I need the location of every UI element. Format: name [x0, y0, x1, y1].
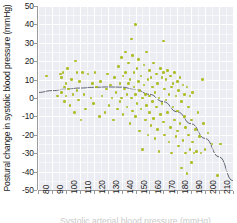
gridline-horizontal-minor — [38, 144, 233, 145]
data-point — [168, 93, 171, 96]
data-point — [63, 86, 66, 89]
y-axis-tick-label: 10 — [25, 75, 34, 85]
x-axis-tick-label: 220 — [236, 180, 237, 194]
x-axis-tick-mark — [122, 191, 123, 194]
y-axis-tick-label: -40 — [22, 167, 34, 177]
gridline-horizontal-minor — [38, 126, 233, 127]
gridline-horizontal — [38, 153, 233, 154]
x-axis-tick-label: 80 — [41, 185, 51, 194]
x-axis-tick-label: 120 — [97, 180, 107, 194]
data-point — [195, 150, 198, 153]
x-axis-tick-label: 180 — [180, 180, 190, 194]
x-axis-tick-mark — [66, 191, 67, 194]
x-axis-tick-label: 200 — [208, 180, 218, 194]
data-point — [166, 69, 169, 72]
data-point — [198, 135, 201, 138]
data-point — [150, 124, 153, 127]
data-point — [138, 89, 141, 92]
gridline-horizontal — [38, 135, 233, 136]
data-point — [112, 119, 115, 122]
y-axis-tick-mark — [34, 153, 37, 154]
y-axis-tick-label: 20 — [25, 56, 34, 66]
data-point — [183, 115, 186, 118]
data-point — [159, 113, 162, 116]
data-point — [152, 117, 155, 120]
data-point — [60, 91, 63, 94]
data-point — [104, 111, 107, 114]
data-point — [162, 40, 165, 43]
data-point — [169, 126, 172, 129]
data-point — [150, 76, 153, 79]
data-point — [134, 23, 137, 26]
y-axis-tick-label: -30 — [22, 148, 34, 158]
x-axis-tick-mark — [163, 191, 164, 194]
data-point — [45, 75, 48, 78]
y-axis-tick-mark — [34, 98, 37, 99]
x-axis-tick-label: 170 — [167, 180, 177, 194]
x-axis-tick-label: 130 — [111, 180, 121, 194]
data-point — [81, 71, 84, 74]
data-point — [216, 174, 219, 177]
data-point — [60, 76, 63, 79]
data-point — [136, 67, 139, 70]
y-axis-tick-mark — [34, 116, 37, 117]
data-point — [65, 82, 68, 85]
x-axis-tick-label: 100 — [69, 180, 79, 194]
data-point — [173, 71, 176, 74]
data-point — [77, 99, 80, 102]
y-axis-title-text: Postural change in systolic blood pressu… — [2, 4, 12, 191]
data-point — [105, 88, 108, 91]
y-axis-tick-mark — [34, 172, 37, 173]
data-point — [134, 115, 137, 118]
x-axis-title-text: Systolic arterial blood pressure (mmHg) — [38, 216, 233, 223]
y-axis-tick-labels: 50403020100-10-20-30-40-50 — [14, 0, 36, 196]
data-point — [134, 93, 137, 96]
data-point — [156, 82, 159, 85]
data-point — [176, 110, 179, 113]
y-axis-tick-label: 50 — [25, 1, 34, 11]
gridline-horizontal — [38, 80, 233, 81]
y-axis-title: Postural change in systolic blood pressu… — [0, 0, 14, 196]
data-point — [130, 97, 133, 100]
y-axis-tick-mark — [34, 43, 37, 44]
data-point — [145, 104, 148, 107]
x-axis-tick-labels: 8090100110120130140150160170180190200210… — [38, 194, 233, 216]
x-axis-tick-label: 210 — [222, 180, 232, 194]
data-point — [148, 111, 151, 114]
data-point — [175, 135, 178, 138]
gridline-horizontal — [38, 6, 233, 7]
data-point — [163, 134, 166, 137]
data-point — [194, 128, 197, 131]
data-point — [176, 80, 179, 83]
x-axis-tick-label: 190 — [194, 180, 204, 194]
data-point — [191, 91, 194, 94]
data-point — [127, 82, 130, 85]
data-point — [137, 58, 140, 61]
data-point — [63, 100, 66, 103]
x-axis-tick-label: 110 — [83, 181, 93, 194]
y-axis-tick-mark — [34, 135, 37, 136]
data-point — [131, 110, 134, 113]
data-point — [151, 86, 154, 89]
data-point — [162, 71, 165, 74]
data-point — [190, 119, 193, 122]
data-point — [141, 148, 144, 151]
x-axis-tick-mark — [94, 191, 95, 194]
x-axis-tick-mark — [108, 191, 109, 194]
data-point — [137, 80, 140, 83]
data-point — [92, 102, 95, 105]
data-point — [91, 82, 94, 85]
x-axis-tick-label: 90 — [55, 185, 65, 194]
data-point — [163, 88, 166, 91]
data-point — [156, 128, 159, 131]
data-point — [190, 161, 193, 164]
gridline-horizontal — [38, 172, 233, 173]
gridline-horizontal-minor — [38, 162, 233, 163]
data-point — [113, 76, 116, 79]
data-point — [124, 71, 127, 74]
x-axis-tick-label: 150 — [139, 180, 149, 194]
data-point — [144, 93, 147, 96]
gridline-horizontal-minor — [38, 70, 233, 71]
data-point — [123, 88, 126, 91]
data-point — [177, 145, 180, 148]
